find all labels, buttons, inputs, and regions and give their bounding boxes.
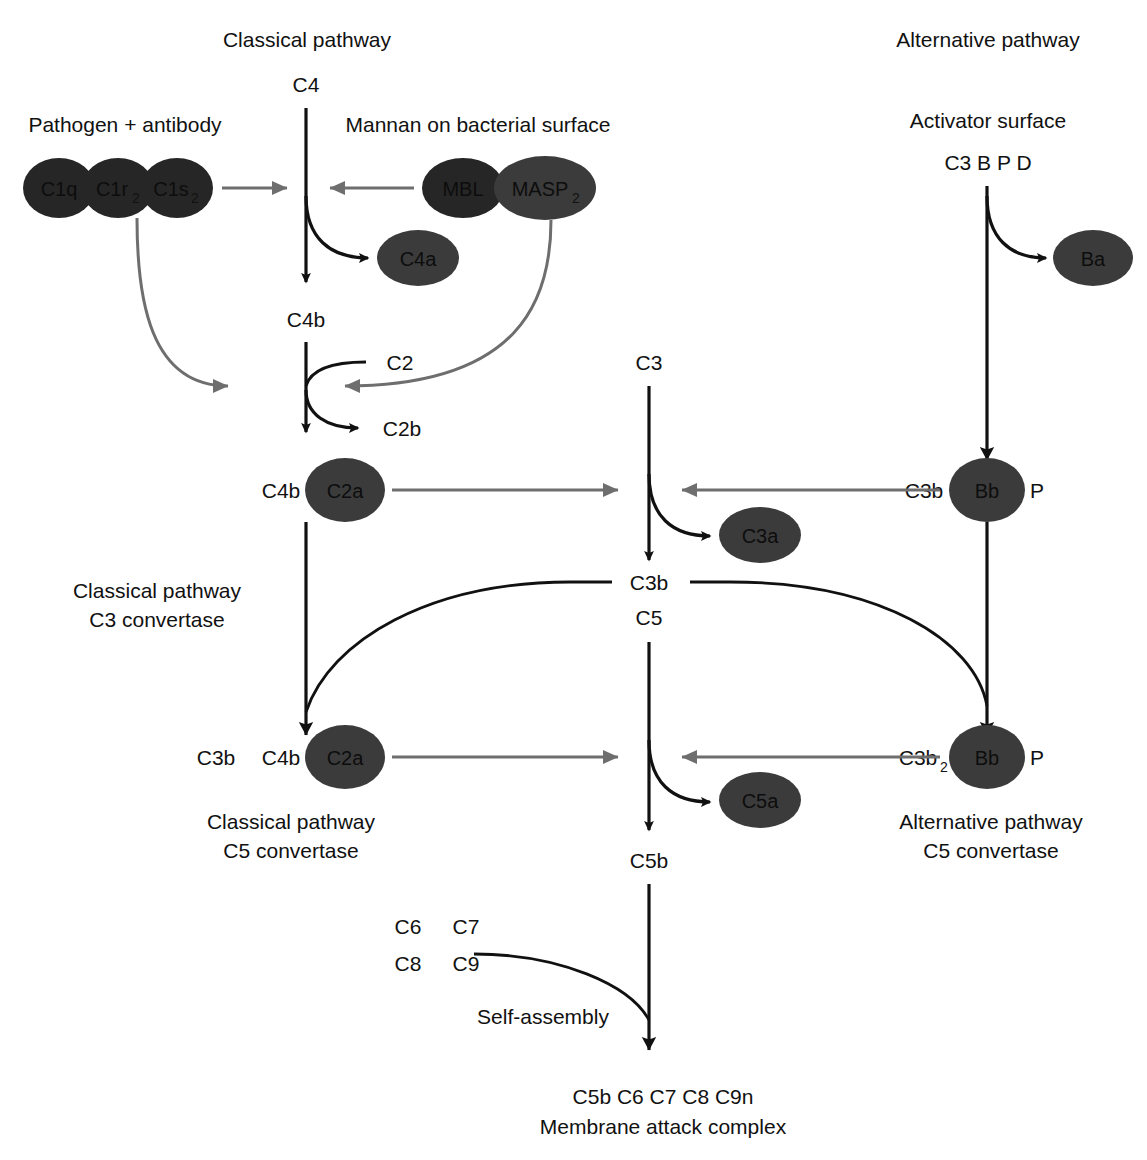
classical-c5-convertase-caption-line1: Classical pathway: [207, 810, 376, 833]
mac-component-c9: C9: [453, 952, 480, 975]
classical-c5-convertase-c4b-label: C4b: [262, 746, 301, 769]
label-c5: C5: [636, 606, 663, 629]
curve-c3b-to-classical-c5conv: [306, 582, 612, 712]
classical-c3-convertase-caption-line2: C3 convertase: [89, 608, 224, 631]
classical-c3-convertase-c4b-label: C4b: [262, 479, 301, 502]
label-c2: C2: [387, 351, 414, 374]
classical-c5-convertase-c2a-label: C2a: [327, 747, 365, 769]
c4a-label: C4a: [400, 248, 438, 270]
masp2-subscript: 2: [572, 190, 580, 206]
arrow-c1-to-c3convertase: [137, 218, 228, 386]
label-c3b: C3b: [630, 571, 669, 594]
masp2-label: MASP: [512, 178, 569, 200]
c1q-label: C1q: [41, 178, 78, 200]
pathway-canvas: Classical pathway Alternative pathway Pa…: [0, 0, 1147, 1160]
label-c3: C3: [636, 351, 663, 374]
alternative-c3-convertase-p-label: P: [1030, 479, 1044, 502]
heading-alternative-pathway: Alternative pathway: [896, 28, 1080, 51]
c1r2-subscript: 2: [132, 190, 140, 206]
label-pathogen-antibody: Pathogen + antibody: [28, 113, 222, 136]
label-activator-surface: Activator surface: [910, 109, 1066, 132]
alternative-c5-convertase-caption-line2: C5 convertase: [923, 839, 1058, 862]
mac-result-line1: C5b C6 C7 C8 C9n: [573, 1085, 754, 1108]
arrow-c4a-release: [306, 196, 368, 258]
mac-component-c6: C6: [395, 915, 422, 938]
c1s2-subscript: 2: [191, 190, 199, 206]
label-self-assembly: Self-assembly: [477, 1005, 609, 1028]
label-mannan-surface: Mannan on bacterial surface: [346, 113, 611, 136]
heading-classical-pathway: Classical pathway: [223, 28, 392, 51]
classical-c5-convertase-caption-line2: C5 convertase: [223, 839, 358, 862]
classical-c5-convertase-c3b-label: C3b: [197, 746, 236, 769]
label-c4: C4: [293, 73, 320, 96]
label-c5b: C5b: [630, 849, 669, 872]
arrow-ba-release: [987, 196, 1046, 258]
c1r2-label: C1r: [96, 178, 129, 200]
mac-component-c7: C7: [453, 915, 480, 938]
alternative-c5-convertase-caption-line1: Alternative pathway: [899, 810, 1083, 833]
alternative-c3-convertase-bb-label: Bb: [975, 480, 999, 502]
arrow-c2b-out: [306, 390, 358, 428]
alternative-c5-convertase-c3b-subscript: 2: [940, 759, 948, 775]
mbl-label: MBL: [442, 178, 483, 200]
arrow-c5a-release: [649, 740, 710, 802]
label-c2b: C2b: [383, 417, 422, 440]
c1s2-label: C1s: [153, 178, 189, 200]
label-activator-components: C3 B P D: [944, 151, 1031, 174]
classical-c3-convertase-caption-line1: Classical pathway: [73, 579, 242, 602]
label-c4b: C4b: [287, 308, 326, 331]
mac-result-line2: Membrane attack complex: [540, 1115, 787, 1138]
arrow-c3a-release: [649, 474, 710, 536]
mac-component-c8: C8: [395, 952, 422, 975]
curve-c3b-to-alternative-c5conv: [690, 582, 987, 706]
curve-c2-in: [306, 362, 366, 386]
alternative-c5-convertase-bb-label: Bb: [975, 747, 999, 769]
c5a-label: C5a: [742, 790, 780, 812]
ba-label: Ba: [1081, 248, 1106, 270]
c3a-label: C3a: [742, 525, 780, 547]
alternative-c5-convertase-p-label: P: [1030, 746, 1044, 769]
classical-c3-convertase-c2a-label: C2a: [327, 480, 365, 502]
complement-pathway-figure: Classical pathway Alternative pathway Pa…: [0, 0, 1147, 1160]
